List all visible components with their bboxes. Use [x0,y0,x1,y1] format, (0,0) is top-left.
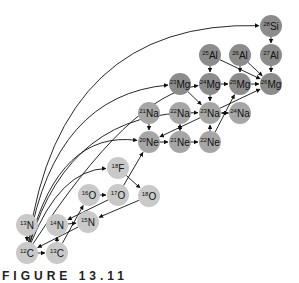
nuclide-23Mg: 23Mg [169,73,191,95]
arrow-14N-15N [68,223,76,224]
nuclide-13N: 13N [16,214,38,236]
nuclide-22Na: 22Na [169,102,191,124]
nuclide-23Na: 23Na [199,102,221,124]
nuclide-12C: 12C [16,242,38,264]
nuclide-16O: 16O [78,184,100,206]
nuclide-21Ne: 21Ne [169,131,191,153]
nuclide-24Mg: 24Mg [199,73,221,95]
nuclide-15N: 15N [77,211,99,233]
nuclide-22Ne: 22Ne [199,131,221,153]
nuclide-25Mg: 25Mg [229,73,251,95]
figure-caption: FIGURE 13.11 [2,269,128,283]
nuclide-20Ne: 20Ne [138,131,160,153]
nuclide-28Si: 28Si [260,15,282,37]
arrow-23Mg-23Na [188,92,201,105]
nuclide-26Al: 26Al [229,44,251,66]
nuclide-14N: 14N [46,214,68,236]
nuclide-13C: 13C [46,242,68,264]
nuclide-21Na: 21Na [138,102,160,124]
arrow-18F-18O [126,175,140,188]
nuclide-18O: 18O [138,185,160,207]
nuclide-nodes: 12C13C13N14N15N16O17O18O18F20Ne21Ne22Ne2… [16,15,282,264]
nuclide-26Mg: 26Mg [260,73,282,95]
nuclide-27Al: 27Al [260,44,282,66]
nuclide-18F: 18F [107,157,129,179]
nuclide-17O: 17O [107,184,129,206]
nuclide-25Al: 25Al [199,44,221,66]
nuclide-24Na: 24Na [229,102,251,124]
